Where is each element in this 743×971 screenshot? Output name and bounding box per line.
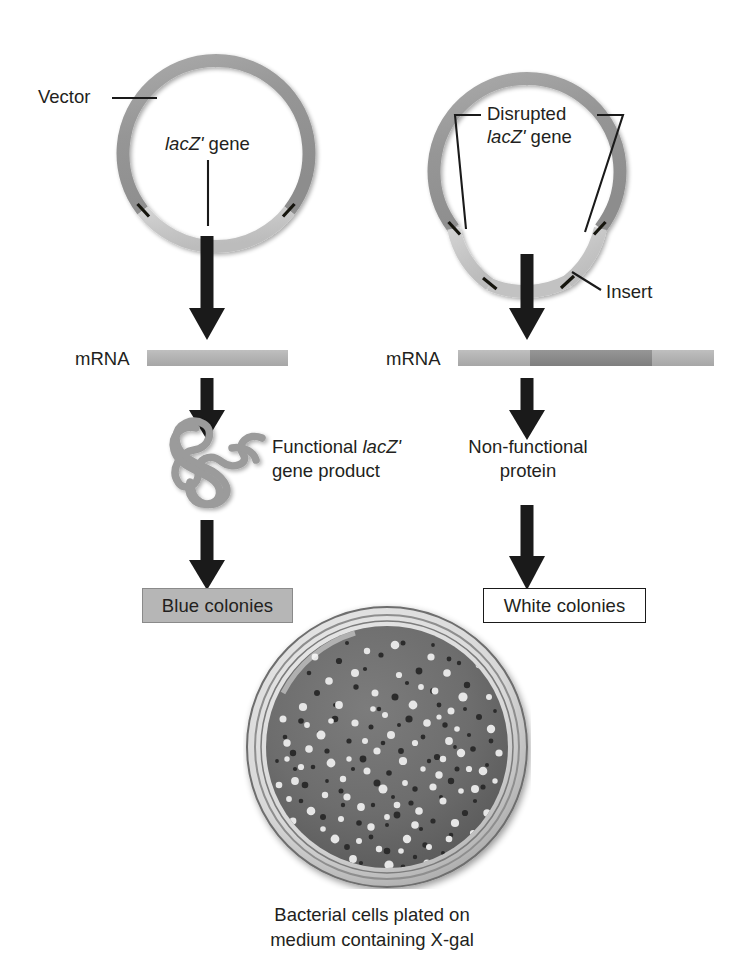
disrupted-lacz-rest: gene bbox=[525, 126, 571, 147]
blue-white-screening-figure: Vector lacZ' gene Disrupted lacZ' gene I… bbox=[0, 0, 743, 971]
arrow-left-transcription bbox=[189, 236, 225, 340]
arrow-right-phenotype bbox=[509, 505, 545, 590]
arrow-right-translation bbox=[509, 378, 545, 440]
tick-junction-4 bbox=[594, 222, 606, 235]
disrupted-lacz-leader-right bbox=[585, 115, 623, 232]
lacz-gene-label-rest: gene bbox=[203, 133, 249, 154]
left-mrna-bar bbox=[147, 350, 288, 366]
disrupted-lacz-italic: lacZ' bbox=[487, 126, 525, 147]
petri-dish-graphic bbox=[243, 601, 531, 889]
nonfunctional-protein-label-line1: Non-functional bbox=[437, 436, 619, 458]
disrupted-lacz-label-line1: Disrupted bbox=[487, 103, 566, 125]
functional-protein-glyph bbox=[173, 421, 262, 504]
disrupted-lacz-leader-left bbox=[455, 115, 481, 229]
lacz-fragment-left bbox=[454, 229, 490, 285]
tick-junction-2 bbox=[483, 278, 497, 289]
insert-label: Insert bbox=[606, 281, 652, 303]
vector-label: Vector bbox=[38, 86, 90, 108]
lacz-gene-label-italic: lacZ' bbox=[165, 133, 203, 154]
tick-junction-3 bbox=[561, 276, 574, 288]
insert-arc bbox=[490, 281, 568, 291]
functional-protein-label-line1: Functional lacZ' bbox=[272, 436, 401, 458]
arrow-right-transcription bbox=[509, 254, 545, 340]
caption-line1: Bacterial cells plated on bbox=[182, 904, 562, 926]
tick-site-left bbox=[138, 204, 150, 217]
lacz-arc bbox=[143, 211, 290, 247]
arrow-left-phenotype bbox=[189, 520, 225, 590]
tick-junction-1 bbox=[449, 222, 461, 235]
arrow-left-translation bbox=[189, 378, 225, 440]
insert-leader-line bbox=[572, 272, 601, 290]
caption-line2: medium containing X-gal bbox=[182, 929, 562, 951]
functional-lacz-italic: lacZ' bbox=[363, 436, 401, 457]
petri-dish-photo bbox=[243, 601, 531, 889]
tick-site-right bbox=[283, 204, 295, 217]
functional-protein-label-line2: gene product bbox=[272, 460, 380, 482]
vector-arc bbox=[434, 78, 620, 228]
lacz-fragment-right bbox=[568, 229, 601, 282]
functional-prefix: Functional bbox=[272, 436, 363, 457]
lacz-gene-label: lacZ' gene bbox=[165, 133, 250, 155]
right-mrna-label: mRNA bbox=[386, 348, 440, 370]
nonfunctional-protein-label-line2: protein bbox=[437, 460, 619, 482]
disrupted-lacz-label-line2: lacZ' gene bbox=[487, 126, 572, 148]
left-mrna-label: mRNA bbox=[75, 348, 129, 370]
right-mrna-bar bbox=[458, 350, 714, 366]
